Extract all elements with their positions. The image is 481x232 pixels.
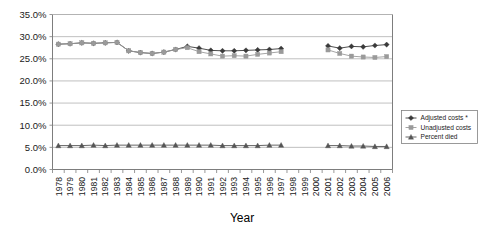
y-axis-tick-label: 15.0% bbox=[20, 97, 47, 108]
y-axis-labels-group: 0.0%5.0%10.0%15.0%20.0%25.0%30.0%35.0% bbox=[20, 9, 53, 175]
x-axis-tick-label: 1983 bbox=[112, 177, 122, 196]
data-point-marker bbox=[349, 44, 354, 49]
data-point-marker bbox=[256, 52, 260, 56]
data-point-marker bbox=[197, 50, 201, 54]
legend-label: Percent died bbox=[421, 133, 458, 140]
data-point-marker bbox=[279, 50, 283, 54]
x-axis-tick-label: 2001 bbox=[323, 177, 333, 196]
data-point-marker bbox=[385, 54, 389, 58]
y-axis-tick-label: 25.0% bbox=[20, 53, 47, 64]
x-axis-tick-label: 1991 bbox=[206, 177, 216, 196]
x-axis-ticks-group bbox=[53, 170, 393, 174]
x-axis-tick-label: 2003 bbox=[347, 177, 357, 196]
x-axis-tick-label: 2005 bbox=[370, 177, 380, 196]
x-axis-tick-label: 2004 bbox=[358, 177, 368, 196]
y-axis-tick-label: 0.0% bbox=[25, 164, 47, 175]
data-point-marker bbox=[150, 51, 154, 55]
legend-label: Adjusted costs * bbox=[421, 114, 469, 122]
x-axis-tick-label: 1982 bbox=[100, 177, 110, 196]
data-point-marker bbox=[185, 46, 189, 50]
data-point-marker bbox=[103, 41, 107, 45]
data-point-marker bbox=[162, 50, 166, 54]
x-axis-title: Year bbox=[230, 211, 254, 225]
series-line bbox=[328, 45, 387, 49]
x-axis-tick-label: 1990 bbox=[194, 177, 204, 196]
data-point-marker bbox=[255, 47, 260, 52]
data-point-marker bbox=[127, 49, 131, 53]
legend-label: Unadjusted costs bbox=[421, 124, 472, 132]
data-point-marker bbox=[337, 46, 342, 51]
x-axis-tick-label: 1988 bbox=[171, 177, 181, 196]
data-point-marker bbox=[80, 41, 84, 45]
data-point-marker bbox=[220, 54, 224, 58]
x-axis-tick-label: 1996 bbox=[265, 177, 275, 196]
x-axis-tick-label: 1984 bbox=[124, 177, 134, 196]
y-axis-tick-label: 10.0% bbox=[20, 120, 47, 131]
series-line bbox=[328, 50, 387, 58]
x-axis-tick-label: 1999 bbox=[300, 177, 310, 196]
x-axis-tick-label: 2000 bbox=[311, 177, 321, 196]
y-axis-tick-label: 35.0% bbox=[20, 9, 47, 20]
legend: Adjusted costs *Unadjusted costsPercent … bbox=[402, 111, 478, 144]
y-axis-tick-label: 30.0% bbox=[20, 31, 47, 42]
data-point-marker bbox=[91, 41, 95, 45]
x-axis-tick-label: 1992 bbox=[218, 177, 228, 196]
x-axis-tick-label: 1980 bbox=[77, 177, 87, 196]
x-axis-tick-label: 1993 bbox=[229, 177, 239, 196]
x-axis-tick-label: 1981 bbox=[89, 177, 99, 196]
x-axis-tick-label: 1979 bbox=[65, 177, 75, 196]
x-axis-tick-label: 1987 bbox=[159, 177, 169, 196]
data-point-marker bbox=[209, 52, 213, 56]
x-axis-tick-label: 1997 bbox=[276, 177, 286, 196]
legend-marker bbox=[409, 125, 413, 129]
data-point-marker bbox=[244, 54, 248, 58]
x-axis-tick-label: 1985 bbox=[136, 177, 146, 196]
x-axis-tick-label: 1995 bbox=[253, 177, 263, 196]
chart-container: 0.0%5.0%10.0%15.0%20.0%25.0%30.0%35.0% 1… bbox=[0, 0, 481, 232]
y-axis-tick-label: 5.0% bbox=[25, 142, 47, 153]
x-axis-tick-label: 1986 bbox=[147, 177, 157, 196]
x-axis-tick-label: 1989 bbox=[183, 177, 193, 196]
data-point-marker bbox=[232, 48, 237, 53]
series-line bbox=[328, 146, 387, 147]
data-point-marker bbox=[68, 42, 72, 46]
x-axis-tick-label: 1994 bbox=[241, 177, 251, 196]
data-point-marker bbox=[338, 51, 342, 55]
x-axis-tick-label: 2002 bbox=[335, 177, 345, 196]
data-point-marker bbox=[138, 50, 142, 54]
data-point-marker bbox=[267, 51, 271, 55]
series-3 bbox=[56, 143, 389, 149]
data-point-marker bbox=[384, 42, 389, 47]
data-point-marker bbox=[361, 44, 366, 49]
data-point-marker bbox=[372, 43, 377, 48]
data-point-marker bbox=[361, 55, 365, 59]
data-point-marker bbox=[349, 54, 353, 58]
x-axis-labels-group: 1978197919801981198219831984198519861987… bbox=[54, 177, 392, 196]
data-point-marker bbox=[243, 48, 248, 53]
data-point-marker bbox=[56, 42, 60, 46]
x-axis-tick-label: 2006 bbox=[382, 177, 392, 196]
x-axis-tick-label: 1978 bbox=[54, 177, 64, 196]
series-group bbox=[56, 40, 389, 149]
data-point-marker bbox=[373, 55, 377, 59]
data-point-marker bbox=[326, 48, 330, 52]
data-point-marker bbox=[115, 40, 119, 44]
x-axis-tick-label: 1998 bbox=[288, 177, 298, 196]
data-point-marker bbox=[220, 48, 225, 53]
data-point-marker bbox=[174, 47, 178, 51]
data-point-marker bbox=[232, 54, 236, 58]
line-chart: 0.0%5.0%10.0%15.0%20.0%25.0%30.0%35.0% 1… bbox=[0, 0, 481, 232]
y-axis-tick-label: 20.0% bbox=[20, 75, 47, 86]
